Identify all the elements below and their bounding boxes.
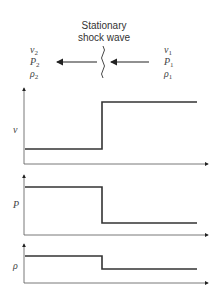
pressure-step-line (25, 187, 197, 223)
title-line-1: Stationary (81, 20, 126, 31)
shock-wave-icon (102, 46, 105, 78)
left-rho-label: ρ2 (29, 68, 39, 81)
title-line-2: shock wave (78, 32, 131, 43)
axis-label-p: P (12, 199, 19, 210)
right-rho-label: ρ1 (163, 68, 173, 81)
pressure-plot: P (12, 175, 208, 235)
density-plot: ρ (12, 244, 208, 283)
shock-wave-diagram: Stationary shock wave v2 P2 ρ2 v1 P1 ρ1 … (0, 0, 224, 305)
axis-label-rho: ρ (12, 260, 18, 271)
density-step-line (25, 256, 197, 269)
velocity-step-line (25, 102, 197, 149)
axis-label-v: v (13, 124, 18, 135)
velocity-plot: v (13, 88, 208, 164)
